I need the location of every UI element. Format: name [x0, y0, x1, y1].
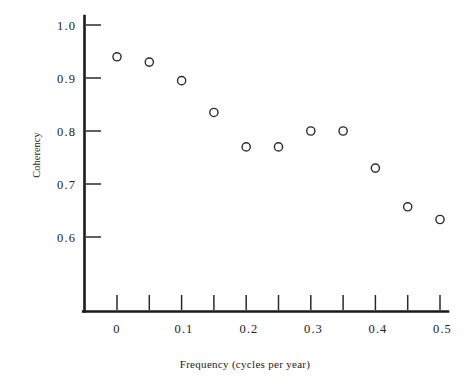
y-tick-label-1-0: 1.0: [57, 19, 76, 33]
figure-background: [0, 0, 469, 390]
plot-canvas: 1.0 0.9 0.8 0.7 0.6 0 0.1 0.2 0.3 0.4: [0, 0, 469, 390]
x-tick-label-0-1: 0.1: [175, 322, 194, 336]
x-tick-label-0-4: 0.4: [369, 322, 388, 336]
x-tick-label-0-2: 0.2: [240, 322, 259, 336]
x-tick-label-0-5: 0.5: [433, 322, 452, 336]
coherency-scatter-figure: 1.0 0.9 0.8 0.7 0.6 0 0.1 0.2 0.3 0.4: [0, 0, 469, 390]
x-tick-label-0-3: 0.3: [304, 322, 323, 336]
y-tick-label-0-6: 0.6: [57, 231, 76, 245]
y-tick-label-0-8: 0.8: [57, 125, 76, 139]
x-tick-label-0: 0: [113, 322, 120, 336]
x-axis-title: Frequency (cycles per year): [180, 358, 311, 371]
y-tick-label-0-7: 0.7: [57, 178, 76, 192]
y-axis-title: Coherency: [31, 132, 42, 178]
y-tick-label-0-9: 0.9: [57, 72, 76, 86]
